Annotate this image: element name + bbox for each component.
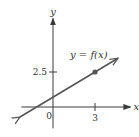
marked-point-0 bbox=[92, 69, 97, 74]
points-group bbox=[92, 69, 97, 74]
x-axis-label: x bbox=[133, 101, 139, 112]
y-tick-label-0: 2.5 bbox=[33, 67, 48, 77]
function-label: y = f(x) bbox=[69, 49, 108, 60]
function-graph: x y 0 32.5 y = f(x) bbox=[0, 0, 139, 137]
x-tick-label-0: 3 bbox=[92, 113, 98, 123]
y-axis-label: y bbox=[49, 6, 56, 17]
origin-label: 0 bbox=[46, 111, 52, 121]
